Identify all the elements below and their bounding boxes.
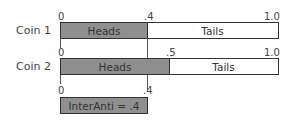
coin2-label: Coin 2 <box>16 61 51 73</box>
coin2-heads-label: Heads <box>99 61 132 73</box>
coin1-tick-heads: .4 <box>144 12 154 22</box>
coin1-tails-label: Tails <box>201 25 223 37</box>
coin1-tick-0: 0 <box>58 12 64 22</box>
coin2-heads-segment: Heads <box>60 58 170 75</box>
coin1-tick-1: 1.0 <box>264 12 280 22</box>
overlap-tick-end: .4 <box>143 86 153 96</box>
coin2-tick-0: 0 <box>58 48 64 58</box>
coin1-heads-label: Heads <box>88 25 121 37</box>
coin2-tick-1: 1.0 <box>264 48 280 58</box>
coin1-label: Coin 1 <box>16 25 51 37</box>
coin1-tails-segment: Tails <box>147 22 279 39</box>
coin2-tails-label: Tails <box>212 61 234 73</box>
coin2-tick-heads: .5 <box>166 48 176 58</box>
interanti-label: InterAnti = .4 <box>68 100 139 112</box>
coin2-tails-segment: Tails <box>169 58 279 75</box>
overlap-tick-0: 0 <box>58 86 64 96</box>
coin1-heads-segment: Heads <box>60 22 148 39</box>
guide-line-zero-2 <box>60 74 61 84</box>
interanti-segment: InterAnti = .4 <box>60 97 148 114</box>
